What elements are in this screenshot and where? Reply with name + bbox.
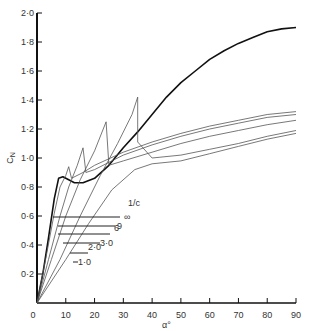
x-tick-label: 50 [176,310,186,320]
series-line-4 [37,97,296,303]
y-tick-label: 0·2 [21,269,34,279]
y-tick-label: 0·6 [21,211,34,221]
series-line-5 [37,133,296,303]
y-tick-label: 1·2 [21,124,34,134]
x-tick-label: 40 [147,310,157,320]
series-line-2 [37,115,296,304]
y-tick-label: 1·8 [21,37,34,47]
x-tick-label: 60 [205,310,215,320]
legend-label: 1·0 [78,257,91,267]
legend-label: 2·0 [88,242,101,252]
x-tick-label: 30 [118,310,128,320]
y-tick-label: 0·8 [21,182,34,192]
y-tick-label: 2·0 [21,8,34,18]
x-tick-label: 0 [30,310,35,320]
y-tick-label: 1·0 [21,153,34,163]
x-axis-title: α° [162,320,171,330]
legend-label: 3·0 [100,238,113,248]
legend-label: ∞ [124,212,130,222]
y-tick-label: 0·4 [21,240,34,250]
y-tick-label: 1·6 [21,66,34,76]
x-tick-label: 20 [90,310,100,320]
series-line-3 [37,120,296,303]
x-tick-label: 90 [291,310,301,320]
y-axis-title: CN [5,152,16,164]
x-tick-label: 10 [61,310,71,320]
x-tick-label: 70 [233,310,243,320]
legend: 1/c∞963·02·01·0 [53,198,141,267]
chart-canvas: 01020304050607080900·20·40·60·81·01·21·4… [0,0,312,331]
axes: 01020304050607080900·20·40·60·81·01·21·4… [5,8,301,330]
legend-label: 6 [114,223,119,233]
y-tick-label: 1·4 [21,95,34,105]
legend-title: 1/c [128,198,141,208]
x-tick-label: 80 [262,310,272,320]
